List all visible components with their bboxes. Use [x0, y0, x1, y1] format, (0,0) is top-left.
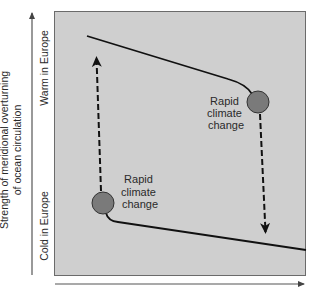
- y-label-cold: Cold in Europe: [38, 191, 50, 261]
- hysteresis-diagram: Rapid climate change Rapid climate chang…: [0, 0, 315, 291]
- y-label-warm: Warm in Europe: [38, 30, 50, 106]
- plot-area: [55, 12, 306, 276]
- upper-transition-label: Rapid climate change: [207, 95, 245, 131]
- y-axis-title-line2: of ocean circulation: [11, 105, 23, 196]
- lower-tipping-point: [92, 192, 114, 214]
- lower-transition-label: Rapid climate change: [121, 173, 159, 210]
- y-axis-title-line1: Strength of meridional overturning: [0, 71, 10, 229]
- upper-tipping-point: [247, 91, 269, 113]
